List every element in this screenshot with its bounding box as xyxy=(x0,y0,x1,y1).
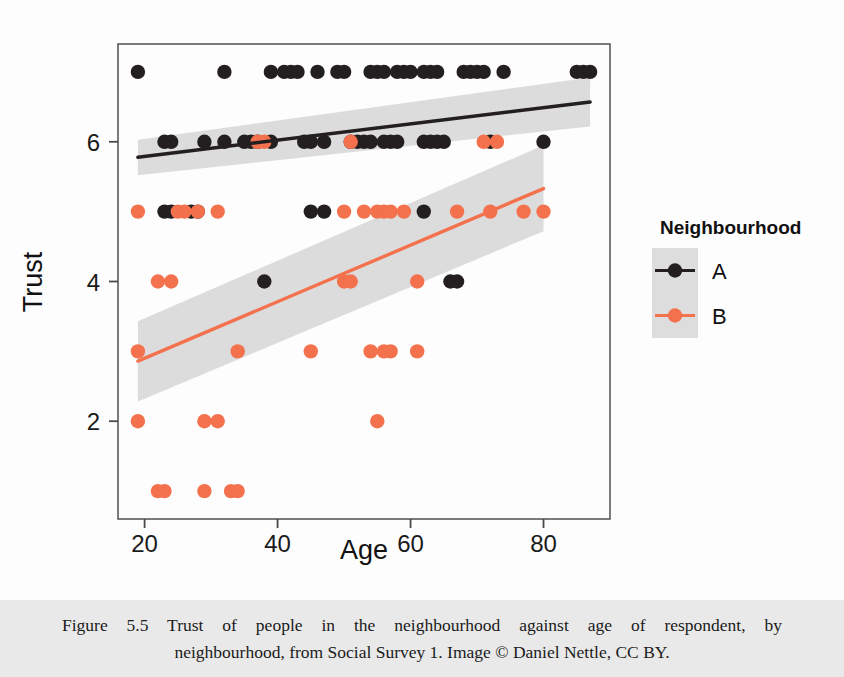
data-point xyxy=(363,135,377,149)
data-point xyxy=(383,204,397,218)
data-point xyxy=(536,135,550,149)
chart-legend: Neighbourhood AB xyxy=(652,217,801,338)
data-point xyxy=(211,204,225,218)
data-point xyxy=(197,484,211,498)
data-point xyxy=(536,204,550,218)
data-point xyxy=(477,65,491,79)
x-axis-title: Age xyxy=(340,535,388,565)
caption-line-1: Figure 5.5 Trust of people in the neighb… xyxy=(60,612,784,639)
data-point xyxy=(477,135,491,149)
y-tick-label: 4 xyxy=(87,269,100,296)
x-tick-label: 60 xyxy=(397,530,424,557)
data-point xyxy=(317,204,331,218)
legend-entries: AB xyxy=(652,248,727,338)
data-point xyxy=(131,344,145,358)
y-tick-label: 2 xyxy=(87,408,100,435)
data-point xyxy=(496,65,510,79)
data-point xyxy=(290,65,304,79)
data-point xyxy=(417,204,431,218)
data-point xyxy=(164,274,178,288)
data-point xyxy=(450,204,464,218)
data-point xyxy=(390,135,404,149)
data-point xyxy=(363,344,377,358)
data-point xyxy=(410,274,424,288)
data-point xyxy=(450,274,464,288)
data-point xyxy=(151,274,165,288)
data-point xyxy=(157,484,171,498)
data-point xyxy=(257,274,271,288)
data-point xyxy=(410,344,424,358)
data-point xyxy=(377,65,391,79)
chart-plot-area: 20406080246 Age Trust Neighbourhood AB xyxy=(0,0,844,600)
data-point xyxy=(197,414,211,428)
data-point xyxy=(344,274,358,288)
data-point xyxy=(516,204,530,218)
data-point xyxy=(490,135,504,149)
data-point xyxy=(304,344,318,358)
data-point xyxy=(217,65,231,79)
data-point xyxy=(430,65,444,79)
legend-label-b: B xyxy=(712,304,727,329)
data-point xyxy=(231,484,245,498)
legend-key-dot-a xyxy=(668,263,682,277)
data-point xyxy=(370,414,384,428)
figure-container: 20406080246 Age Trust Neighbourhood AB F… xyxy=(0,0,844,677)
legend-key-dot-b xyxy=(668,308,682,322)
data-point xyxy=(397,204,411,218)
legend-label-a: A xyxy=(712,259,727,284)
data-point xyxy=(344,135,358,149)
data-point xyxy=(177,204,191,218)
data-point xyxy=(583,65,597,79)
data-point xyxy=(191,204,205,218)
data-point xyxy=(131,414,145,428)
x-tick-label: 20 xyxy=(131,530,158,557)
y-tick-label: 6 xyxy=(87,129,100,156)
data-point xyxy=(403,65,417,79)
data-point xyxy=(264,65,278,79)
x-tick-label: 80 xyxy=(530,530,557,557)
figure-caption: Figure 5.5 Trust of people in the neighb… xyxy=(60,612,784,666)
data-point xyxy=(131,204,145,218)
data-point xyxy=(310,65,324,79)
data-point xyxy=(383,344,397,358)
data-point xyxy=(357,204,371,218)
y-axis-title: Trust xyxy=(18,251,48,312)
data-point xyxy=(337,65,351,79)
data-point xyxy=(211,414,225,428)
data-point xyxy=(337,204,351,218)
data-point xyxy=(231,344,245,358)
x-tick-label: 40 xyxy=(264,530,291,557)
caption-line-2: neighbourhood, from Social Survey 1. Ima… xyxy=(60,639,784,666)
data-point xyxy=(304,204,318,218)
data-point xyxy=(437,135,451,149)
data-point xyxy=(131,65,145,79)
data-point xyxy=(164,135,178,149)
scatter-chart: 20406080246 Age Trust Neighbourhood AB xyxy=(0,0,844,600)
legend-title: Neighbourhood xyxy=(660,217,801,238)
